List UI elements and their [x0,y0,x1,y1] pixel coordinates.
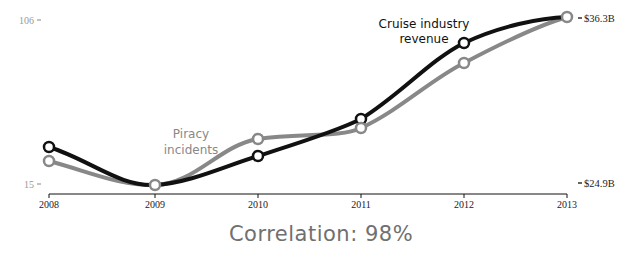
left-axis: 106 15 [19,15,41,190]
point-revenue-2012 [459,38,469,48]
left-tick-bottom: 15 [24,179,34,190]
x-tick-2009: 2009 [145,199,165,210]
markers-piracy-incidents [44,12,572,190]
x-tick-2013: 2013 [557,199,577,210]
point-piracy-2010 [253,134,263,144]
x-tick-2011: 2011 [351,199,371,210]
annotation-cruise-line2: revenue [399,32,448,46]
left-tick-top: 106 [19,15,34,26]
point-piracy-2008 [44,156,54,166]
point-revenue-2008 [44,142,54,152]
point-piracy-2013 [562,12,572,22]
annotation-piracy: Piracy incidents [164,127,218,157]
series-piracy-incidents [49,17,567,185]
series-cruise-revenue [49,17,567,185]
x-tick-2012: 2012 [454,199,474,210]
right-tick-top: $36.3B [584,13,615,24]
annotation-cruise-line1: Cruise industry [379,17,470,31]
right-axis: $36.3B $24.9B [578,13,615,189]
annotation-cruise-revenue: Cruise industry revenue [379,17,470,46]
correlation-caption: Correlation: 98% [0,222,642,246]
annotation-piracy-line1: Piracy [173,127,209,141]
point-piracy-2012 [459,58,469,68]
right-tick-bottom: $24.9B [584,178,615,189]
point-revenue-2010 [253,151,263,161]
x-tick-2010: 2010 [248,199,268,210]
annotation-piracy-line2: incidents [164,143,218,157]
point-piracy-2009 [150,180,160,190]
x-axis: 2008 2009 2010 2011 2012 2013 [39,194,577,210]
point-piracy-2011 [356,123,366,133]
x-tick-2008: 2008 [39,199,59,210]
